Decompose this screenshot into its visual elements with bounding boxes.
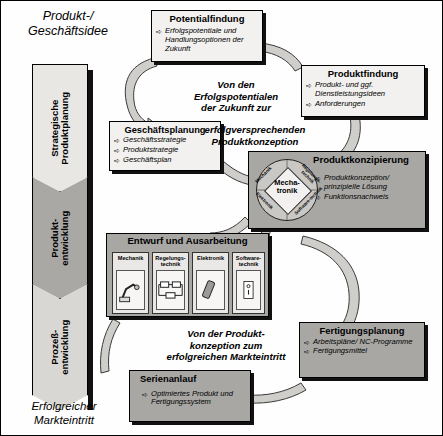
bottom-label-line1: Erfolgreicher [5, 400, 123, 414]
discipline-label: Elektronik [193, 253, 228, 261]
discipline-panel-mechanik[interactable]: Mechanik [112, 252, 149, 314]
discipline-label: Software- technik [233, 253, 264, 267]
box-title: Produktfindung [306, 69, 420, 80]
arrow-bullet-icon: ➪ [304, 338, 310, 347]
discipline-line1: Mechanik [113, 255, 148, 261]
caption-line: der Zukunft zur [163, 102, 309, 114]
list-item-label: Geschäftsplan [123, 155, 172, 164]
phase-line1: Produkt- [50, 211, 60, 266]
arrow-bullet-icon: ➪ [114, 146, 120, 155]
box-serienanlauf[interactable]: Serienanlauf ➪ Optimiertes Produkt und F… [129, 370, 251, 422]
band-shadow [88, 70, 93, 410]
box-title: Entwurf und Ausarbeitung [111, 236, 264, 247]
list-item-label: Funktionsnachweis [324, 192, 389, 201]
caption-upper-flow: Von den Erfolgspotentialen der Zukunft z… [163, 79, 309, 114]
bottom-label: Erfolgreicher Markteintritt [5, 400, 123, 428]
caption-line: erfolgversprechenden [179, 124, 331, 136]
list-item-label: Optimiertes Produkt und Fertigungssystem [151, 389, 233, 407]
box-title: Serienanlauf [134, 374, 246, 385]
discipline-label: Regelungs- technik [153, 253, 188, 267]
arrow-bullet-icon: ➪ [114, 136, 120, 145]
box-items: ➪ Arbeitspläne/ NC-Programme ➪ Fertigung… [304, 338, 420, 357]
arrow-bullet-icon: ➪ [114, 156, 120, 165]
discipline-panel-softwaretechnik[interactable]: Software- technik [232, 252, 265, 314]
phase-strategische-produktplanung[interactable]: Strategische Produktplanung [32, 64, 88, 192]
caption-line: Produktkonzeption [179, 136, 331, 148]
list-item: ➪ Anforderungen [306, 100, 420, 109]
caption-line: Von der Produkt- [141, 328, 311, 340]
list-item-label: Anforderungen [315, 99, 365, 108]
list-item: ➪ Fertigungsmittel [304, 347, 420, 356]
software-code-icon [236, 270, 261, 310]
box-potentialfindung[interactable]: Potentialfindung ➪ Erfolgspotentiale und… [151, 10, 263, 62]
discipline-line2: technik [233, 261, 264, 267]
phase-prozessentwicklung[interactable]: Prozeß- entwicklung [32, 284, 88, 410]
phase-line2: entwicklung [60, 211, 70, 266]
phase-label: Strategische Produktplanung [50, 92, 71, 165]
box-fertigungsplanung[interactable]: Fertigungsplanung ➪ Arbeitspläne/ NC-Pro… [299, 322, 425, 378]
phase-label: Prozeß- entwicklung [50, 320, 71, 375]
mechatronik-wheel: Mecha- tronik Mechanik Regelungs-technik… [256, 159, 318, 221]
discipline-panel-elektronik[interactable]: Elektronik [192, 252, 229, 314]
circuit-component-icon [196, 270, 225, 310]
bottom-label-line2: Markteintritt [5, 414, 123, 428]
discipline-label: Mechanik [113, 253, 148, 261]
box-title: Produktkonzipierung [313, 155, 421, 166]
phase-line2: entwicklung [60, 320, 70, 375]
list-item: ➪ Geschäftsplan [114, 156, 216, 165]
robot-arm-icon [116, 270, 145, 310]
phase-label: Produkt- entwicklung [50, 211, 71, 266]
box-items: ➪ Erfolgspotentiale und Handlungsoptione… [156, 27, 258, 54]
list-item-label: Geschäftsstrategie [123, 135, 186, 144]
list-item: ➪ Optimiertes Produkt und Fertigungssyst… [142, 390, 246, 408]
caption-line: konzeption zum [141, 340, 311, 352]
box-items: ➪ Produkt- und ggf. Dienstleistungsideen… [306, 81, 420, 109]
box-items: ➪ Produktkonzeption/ prinzipielle Lösung… [315, 174, 421, 202]
arrow-bullet-icon: ➪ [142, 390, 148, 399]
caption-line: Erfolgspotentialen [163, 91, 309, 103]
list-item: ➪ Arbeitspläne/ NC-Programme [304, 338, 420, 347]
top-label-line1: Produkt-/ [9, 9, 127, 24]
list-item: ➪ Funktionsnachweis [315, 193, 421, 202]
discipline-line2: technik [153, 261, 188, 267]
box-entwurf-und-ausarbeitung[interactable]: Entwurf und Ausarbeitung Mechanik Regelu… [106, 233, 269, 317]
box-produktfindung[interactable]: Produktfindung ➪ Produkt- und ggf. Diens… [301, 65, 425, 117]
caption-line: Von den [163, 79, 309, 91]
list-item-label: Produkt- und ggf. Dienstleistungsideen [315, 80, 385, 98]
wheel-center-line2: tronik [264, 187, 310, 195]
diagram-canvas: Produkt-/ Geschäftsidee Strategische Pro… [0, 0, 443, 436]
phase-label-wrap: Produkt- entwicklung [33, 178, 87, 298]
top-label: Produkt-/ Geschäftsidee [9, 9, 127, 39]
caption-lower-flow: Von der Produkt- konzeption zum erfolgre… [141, 328, 311, 363]
discipline-panel-regelungstechnik[interactable]: Regelungs- technik [152, 252, 189, 314]
list-item-label: Erfolgspotentiale und Handlungsoptionen … [165, 26, 244, 53]
wheel-center-label: Mecha- tronik [264, 179, 310, 196]
phase-band: Strategische Produktplanung Produkt- ent… [32, 64, 88, 410]
box-title: Potentialfindung [156, 14, 258, 25]
arrow-bullet-icon: ➪ [156, 27, 162, 36]
phase-line2: Produktplanung [60, 92, 70, 165]
phase-label-wrap: Strategische Produktplanung [33, 65, 87, 191]
list-item-label: Produktstrategie [123, 145, 178, 154]
box-title: Fertigungsplanung [304, 326, 420, 337]
top-label-line2: Geschäftsidee [9, 24, 127, 39]
list-item-label: Fertigungsmittel [313, 346, 367, 355]
phase-label-wrap: Prozeß- entwicklung [33, 285, 87, 409]
list-item: ➪ Produktstrategie [114, 146, 216, 155]
caption-upper-flow-cont: erfolgversprechenden Produktkonzeption [179, 124, 331, 147]
list-item-label: Arbeitspläne/ NC-Programme [313, 337, 413, 346]
caption-line: erfolgreichen Markteintritt [141, 351, 311, 363]
arrow-bullet-icon: ➪ [304, 347, 310, 356]
phase-produktentwicklung[interactable]: Produkt- entwicklung [32, 177, 88, 299]
list-item: ➪ Produktkonzeption/ prinzipielle Lösung [315, 174, 421, 192]
control-loop-icon [156, 270, 185, 310]
list-item: ➪ Produkt- und ggf. Dienstleistungsideen [306, 81, 420, 99]
list-item: ➪ Erfolgspotentiale und Handlungsoptione… [156, 27, 258, 54]
discipline-line1: Elektronik [193, 255, 228, 261]
box-items: ➪ Optimiertes Produkt und Fertigungssyst… [142, 390, 246, 408]
list-item-label: Produktkonzeption/ prinzipielle Lösung [324, 173, 389, 191]
phase-line1: Prozeß- [50, 320, 60, 375]
